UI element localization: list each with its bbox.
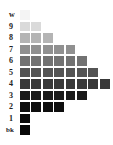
row-label: 6 bbox=[9, 56, 20, 66]
swatch bbox=[20, 68, 30, 78]
swatch bbox=[20, 22, 30, 32]
swatch bbox=[54, 79, 64, 89]
swatch bbox=[31, 45, 41, 55]
swatch bbox=[66, 68, 76, 78]
swatch bbox=[20, 91, 30, 101]
row-label: w bbox=[9, 10, 20, 20]
swatch bbox=[66, 56, 76, 66]
row-label: 4 bbox=[9, 79, 20, 89]
row-label: 8 bbox=[9, 33, 20, 43]
row-label: 1 bbox=[9, 114, 20, 124]
row-label: 7 bbox=[9, 45, 20, 55]
swatch bbox=[77, 56, 87, 66]
swatch bbox=[43, 91, 53, 101]
swatch bbox=[88, 68, 98, 78]
swatch bbox=[54, 68, 64, 78]
row-label: 9 bbox=[9, 22, 20, 32]
swatch bbox=[54, 91, 64, 101]
swatch bbox=[54, 56, 64, 66]
swatch bbox=[66, 91, 76, 101]
swatch bbox=[77, 79, 87, 89]
swatch bbox=[66, 45, 76, 55]
swatch bbox=[77, 68, 87, 78]
swatch bbox=[20, 79, 30, 89]
swatch bbox=[100, 79, 110, 89]
swatch bbox=[43, 102, 53, 112]
swatch bbox=[20, 45, 30, 55]
swatch bbox=[54, 102, 64, 112]
swatch bbox=[43, 79, 53, 89]
swatch bbox=[20, 33, 30, 43]
swatch bbox=[31, 102, 41, 112]
swatch bbox=[20, 114, 30, 124]
swatch bbox=[20, 10, 30, 20]
swatch bbox=[31, 33, 41, 43]
swatch bbox=[43, 56, 53, 66]
swatch bbox=[54, 45, 64, 55]
swatch bbox=[43, 68, 53, 78]
row-label: 5 bbox=[9, 68, 20, 78]
swatch bbox=[88, 79, 98, 89]
row-label: 3 bbox=[9, 91, 20, 101]
swatch bbox=[77, 91, 87, 101]
row-label: 2 bbox=[9, 102, 20, 112]
swatch bbox=[31, 68, 41, 78]
swatch bbox=[66, 79, 76, 89]
row-label: bk bbox=[6, 125, 17, 135]
swatch bbox=[31, 79, 41, 89]
swatch bbox=[31, 22, 41, 32]
swatch bbox=[31, 91, 41, 101]
swatch bbox=[31, 56, 41, 66]
swatch bbox=[43, 45, 53, 55]
swatch bbox=[20, 102, 30, 112]
swatch bbox=[20, 125, 30, 135]
swatch bbox=[20, 56, 30, 66]
swatch bbox=[43, 33, 53, 43]
